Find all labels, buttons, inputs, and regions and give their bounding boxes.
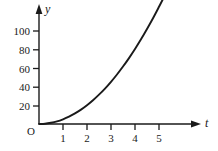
origin-label: O — [27, 126, 35, 137]
x-axis-ticks — [63, 124, 159, 130]
y-axis-arrowhead — [36, 4, 43, 14]
y-tick-label-100: 100 — [0, 26, 30, 37]
y-tick-label-20: 20 — [0, 101, 30, 112]
x-tick-label-3: 3 — [108, 133, 114, 144]
y-tick-label-40: 40 — [0, 82, 30, 93]
x-tick-label-1: 1 — [60, 133, 66, 144]
y-axis-ticks — [33, 31, 39, 106]
chart-figure: 100 80 60 40 20 1 2 3 4 5 O y t — [0, 0, 218, 151]
x-tick-label-2: 2 — [84, 133, 90, 144]
y-tick-label-80: 80 — [0, 44, 30, 55]
x-axis-label: t — [205, 117, 208, 129]
x-axis-arrowhead — [191, 121, 201, 128]
x-tick-label-4: 4 — [132, 133, 138, 144]
y-tick-label-60: 60 — [0, 63, 30, 74]
y-axis-label: y — [45, 3, 50, 15]
data-curve — [39, 0, 164, 124]
x-tick-label-5: 5 — [156, 133, 162, 144]
